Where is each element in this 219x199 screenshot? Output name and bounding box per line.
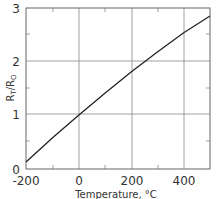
y-axis-title: RT/RO: [5, 74, 18, 102]
x-tick-label: -200: [12, 174, 39, 188]
plot-frame: [26, 8, 210, 169]
grid: [26, 8, 210, 169]
y-tick-label: 2: [12, 55, 20, 69]
x-tick-label: 400: [173, 174, 196, 188]
y-tick-label: 3: [12, 2, 20, 16]
x-axis-title: Temperature, °C: [74, 189, 157, 199]
y-tick-label: 1: [12, 108, 20, 122]
svg-text:RT/RO: RT/RO: [5, 74, 18, 102]
x-tick-label: 200: [121, 174, 144, 188]
minor-ticks: [26, 8, 210, 169]
line-chart: 0 1 2 3 -200 0 200 400 Temperature, °C R…: [0, 0, 219, 199]
series-line: [26, 16, 210, 162]
x-tick-label: 0: [75, 174, 83, 188]
